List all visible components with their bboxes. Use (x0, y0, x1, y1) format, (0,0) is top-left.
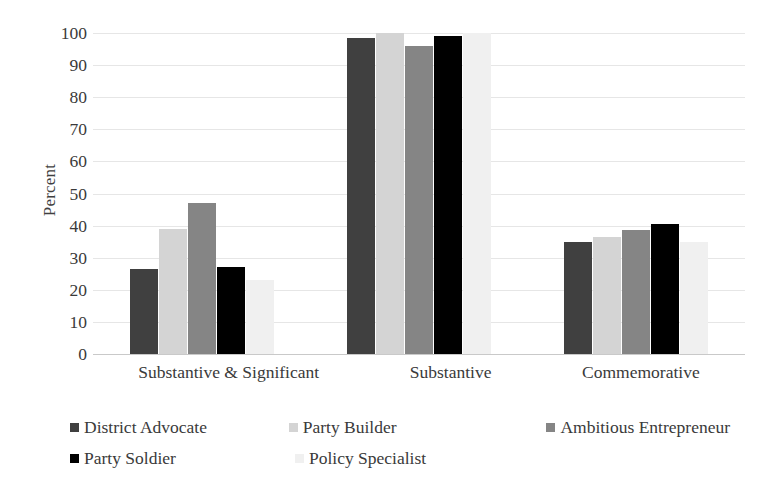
y-axis-tick-label: 70 (41, 119, 87, 140)
x-axis-line (93, 354, 745, 355)
x-axis-labels: Substantive & SignificantSubstantiveComm… (93, 362, 745, 383)
plot-area (93, 33, 745, 354)
bar-groups (93, 33, 745, 354)
legend-swatch-icon (70, 454, 79, 463)
bar[interactable] (188, 203, 216, 354)
y-axis-tick-label: 90 (41, 55, 87, 76)
bar[interactable] (651, 224, 679, 354)
legend-item[interactable]: Ambitious Entrepreneur (546, 417, 730, 438)
x-axis-label: Substantive & Significant (138, 362, 319, 383)
bar-group (129, 33, 274, 354)
bar[interactable] (159, 229, 187, 354)
y-axis-tick-label: 80 (41, 87, 87, 108)
bar[interactable] (217, 267, 245, 354)
bar[interactable] (376, 33, 404, 354)
bar[interactable] (564, 242, 592, 354)
bar-group (346, 33, 491, 354)
y-axis-tick-label: 40 (41, 215, 87, 236)
bar[interactable] (593, 237, 621, 354)
legend-label: Ambitious Entrepreneur (560, 417, 730, 438)
bar[interactable] (680, 242, 708, 354)
bar[interactable] (622, 230, 650, 354)
y-axis-tick-label: 10 (41, 311, 87, 332)
legend-item[interactable]: Party Builder (289, 417, 547, 438)
bar[interactable] (463, 33, 491, 354)
bar[interactable] (130, 269, 158, 354)
legend-label: District Advocate (84, 417, 207, 438)
bar-chart: Percent 1009080706050403020100 Substanti… (0, 0, 770, 497)
legend-swatch-icon (295, 454, 304, 463)
x-axis-label: Commemorative (582, 362, 700, 383)
legend-item[interactable]: Party Soldier (70, 448, 295, 469)
legend-label: Policy Specialist (309, 448, 426, 469)
bar[interactable] (434, 36, 462, 354)
legend-label: Party Soldier (84, 448, 176, 469)
legend-swatch-icon (289, 423, 298, 432)
y-axis-ticks: 1009080706050403020100 (35, 33, 87, 354)
y-axis-tick-label: 20 (41, 279, 87, 300)
legend-label: Party Builder (303, 417, 397, 438)
legend-swatch-icon (70, 423, 79, 432)
legend-row: Party SoldierPolicy Specialist (70, 443, 730, 474)
y-axis-tick-label: 30 (41, 247, 87, 268)
bar[interactable] (347, 38, 375, 354)
y-axis-tick-label: 100 (41, 23, 87, 44)
bar-group (564, 33, 709, 354)
y-axis-tick-label: 50 (41, 183, 87, 204)
bar[interactable] (405, 46, 433, 354)
legend-swatch-icon (546, 423, 555, 432)
y-axis-tick-label: 0 (41, 344, 87, 365)
legend-item[interactable]: District Advocate (70, 417, 289, 438)
legend-row: District AdvocateParty BuilderAmbitious … (70, 412, 730, 443)
x-axis-label: Substantive (410, 362, 492, 383)
legend-item[interactable]: Policy Specialist (295, 448, 426, 469)
chart-legend: District AdvocateParty BuilderAmbitious … (70, 412, 730, 474)
bar[interactable] (246, 280, 274, 354)
y-axis-tick-label: 60 (41, 151, 87, 172)
